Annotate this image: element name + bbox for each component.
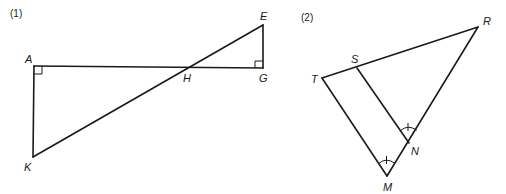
point-label-N: N <box>411 145 419 157</box>
segment-SN <box>357 68 409 143</box>
point-label-M: M <box>383 181 393 193</box>
segment-TR <box>322 27 478 78</box>
segment-AK <box>33 66 34 157</box>
point-label-H: H <box>183 72 191 84</box>
right-angle-mark-A <box>34 66 42 74</box>
figure-2: (2) T S R N M <box>301 12 491 193</box>
point-label-G: G <box>259 72 268 84</box>
figure-1: (1) A K H G E <box>10 8 268 173</box>
diagram-canvas: (1) A K H G E (2) T S R N M <box>0 0 506 194</box>
segment-KE <box>33 25 263 157</box>
segment-RM <box>387 27 478 176</box>
point-label-R: R <box>483 15 491 27</box>
right-angle-mark-G <box>255 61 263 68</box>
point-label-T: T <box>311 73 319 85</box>
segment-AG <box>34 66 263 68</box>
figure-2-number: (2) <box>301 12 313 23</box>
point-label-K: K <box>24 161 32 173</box>
segment-MT <box>322 78 387 176</box>
point-label-A: A <box>24 53 32 65</box>
point-label-S: S <box>351 53 359 65</box>
figure-1-number: (1) <box>10 8 22 19</box>
point-label-E: E <box>260 10 268 22</box>
